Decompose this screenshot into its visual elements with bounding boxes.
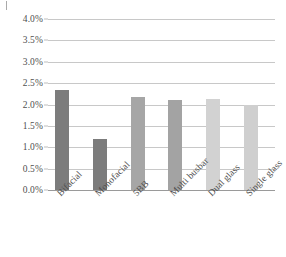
scan-artifact-mark [6,1,7,10]
bar-chart-figure: 4.0%3.5%3.0%2.5%2.0%1.5%1.0%0.5%0.0% Bif… [0,0,286,257]
y-axis-tick-label: 3.0% [23,57,43,67]
y-axis-tick-label: 2.0% [23,100,43,110]
y-axis-tick-label: 1.0% [23,142,43,152]
y-axis-tick-label: 2.5% [23,78,43,88]
plot-area: 4.0%3.5%3.0%2.5%2.0%1.5%1.0%0.5%0.0% [48,19,275,190]
y-axis-tick-label: 3.5% [23,35,43,45]
y-axis-tick-label: 0.5% [23,164,43,174]
bar [55,90,69,190]
y-axis-tick-label: 1.5% [23,121,43,131]
x-axis-labels-group: BifacialMonofacial5BBMulti busbarDual gl… [48,191,275,257]
bar [168,100,182,190]
y-axis-tick-label: 4.0% [23,14,43,24]
bar [206,99,220,190]
bar [131,97,145,190]
bars-group [48,19,275,190]
y-axis-tick-label: 0.0% [23,185,43,195]
